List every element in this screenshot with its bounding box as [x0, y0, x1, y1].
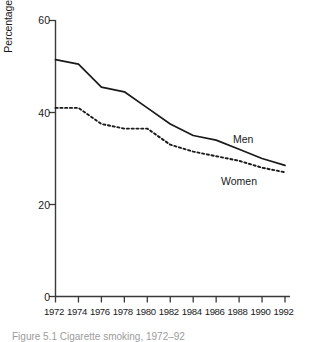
- x-tick-label-1992: 1992: [274, 306, 294, 317]
- series-label-women: Women: [221, 175, 257, 187]
- x-tick-label-1986: 1986: [205, 306, 225, 317]
- y-tick-label-40: 40: [24, 107, 50, 119]
- x-tick-label-1976: 1976: [90, 306, 110, 317]
- x-tick-label-1984: 1984: [182, 306, 202, 317]
- y-tick-label-20: 20: [24, 199, 50, 211]
- x-axis-ticks: [56, 297, 286, 303]
- series-line-men: [56, 60, 286, 166]
- x-tick-label-1988: 1988: [228, 306, 248, 317]
- y-axis-title: Percentage smoking cigarettes: [2, 0, 20, 62]
- x-tick-label-1972: 1972: [44, 306, 64, 317]
- y-tick-label-0: 0: [24, 291, 50, 303]
- x-tick-label-1990: 1990: [251, 306, 271, 317]
- y-tick-label-60: 60: [24, 14, 50, 26]
- x-tick-label-1980: 1980: [136, 306, 156, 317]
- y-axis-ticks: [49, 21, 56, 297]
- x-tick-label-1974: 1974: [67, 306, 87, 317]
- figure-caption: Figure 5.1 Cigarette smoking, 1972–92: [12, 331, 302, 342]
- series-label-men: Men: [233, 133, 253, 145]
- x-tick-label-1978: 1978: [113, 306, 133, 317]
- x-tick-label-1982: 1982: [159, 306, 179, 317]
